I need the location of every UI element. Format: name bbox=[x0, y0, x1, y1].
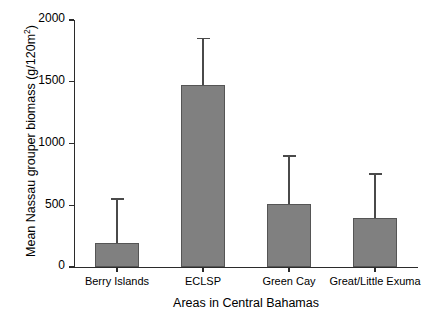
bar bbox=[267, 204, 311, 267]
y-axis-tick-label: 0 bbox=[58, 258, 65, 272]
plot-area: 0500100015002000 Berry IslandsECLSPGreen… bbox=[74, 20, 418, 267]
error-bar-cap bbox=[197, 38, 210, 39]
x-axis-category-label: Berry Islands bbox=[85, 275, 149, 287]
error-bar-stem bbox=[116, 198, 117, 242]
y-axis-title: Mean Nassau grouper biomass (g/120m2) bbox=[24, 6, 38, 276]
bar bbox=[353, 218, 397, 267]
error-bar-stem bbox=[202, 38, 203, 85]
x-axis-category-label: Green Cay bbox=[262, 275, 315, 287]
y-axis-tick: 0 bbox=[69, 266, 74, 267]
bar bbox=[181, 85, 225, 267]
y-axis-title-text: Mean Nassau grouper biomass (g/120m bbox=[24, 34, 38, 257]
x-axis-category-label: ECLSP bbox=[185, 275, 221, 287]
y-axis-tick-label: 1500 bbox=[38, 73, 65, 87]
x-axis-title: Areas in Central Bahamas bbox=[74, 296, 418, 310]
y-axis-tick: 1500 bbox=[69, 81, 74, 82]
error-bar-cap bbox=[111, 198, 124, 199]
y-axis-tick-label: 500 bbox=[45, 197, 65, 211]
y-axis-title-suffix: ) bbox=[24, 25, 38, 29]
x-axis-tick bbox=[202, 267, 203, 272]
error-bar-stem bbox=[374, 173, 375, 218]
y-axis-tick-label: 2000 bbox=[38, 11, 65, 25]
x-axis-line bbox=[74, 267, 418, 268]
x-axis-tick bbox=[374, 267, 375, 272]
bar bbox=[95, 243, 139, 267]
y-axis-line bbox=[74, 20, 75, 267]
y-axis-tick: 500 bbox=[69, 205, 74, 206]
error-bar-stem bbox=[288, 155, 289, 204]
error-bar-cap bbox=[283, 155, 296, 156]
x-axis-category-label: Great/Little Exuma bbox=[329, 275, 420, 287]
y-axis-tick: 2000 bbox=[69, 19, 74, 20]
y-axis-tick-label: 1000 bbox=[38, 135, 65, 149]
bar-chart-figure: Mean Nassau grouper biomass (g/120m2) 05… bbox=[0, 0, 438, 323]
error-bar-cap bbox=[369, 173, 382, 174]
x-axis-tick bbox=[116, 267, 117, 272]
x-axis-tick bbox=[288, 267, 289, 272]
y-axis-title-superscript: 2 bbox=[22, 29, 32, 34]
y-axis-tick: 1000 bbox=[69, 143, 74, 144]
